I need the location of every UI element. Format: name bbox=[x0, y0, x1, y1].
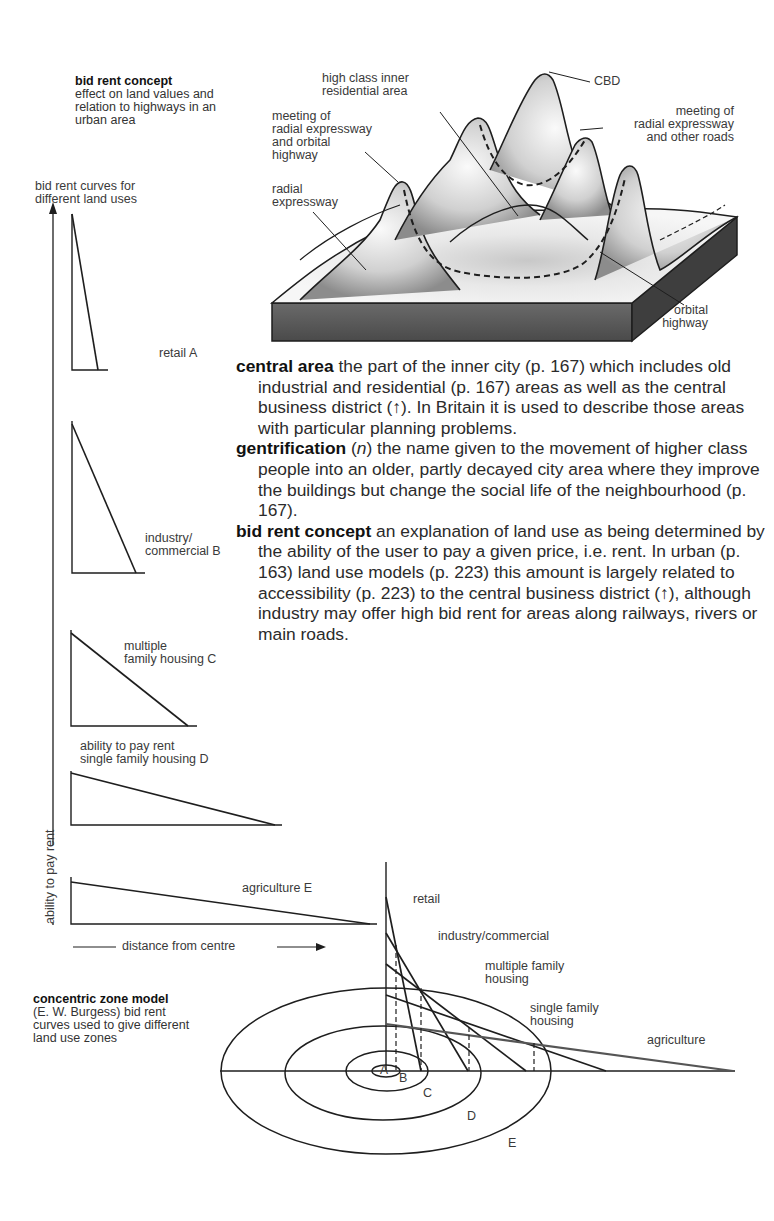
model-label-retail: retail bbox=[413, 893, 440, 906]
model-label-agriculture: agriculture bbox=[647, 1034, 705, 1047]
zone-label-A: A bbox=[380, 1064, 388, 1077]
zone-label-E: E bbox=[508, 1137, 516, 1150]
zone-label-D: D bbox=[467, 1110, 476, 1123]
model-label-multiple-family: multiple family housing bbox=[485, 960, 564, 986]
label-line: housing bbox=[530, 1015, 599, 1028]
model-label-single-family: single family housing bbox=[530, 1002, 599, 1028]
zone-label-B: B bbox=[399, 1072, 407, 1085]
label-line: housing bbox=[485, 973, 564, 986]
model-label-industry: industry/commercial bbox=[438, 930, 549, 943]
zone-label-C: C bbox=[423, 1087, 432, 1100]
